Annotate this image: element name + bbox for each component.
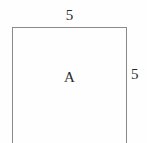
square-shape	[12, 27, 127, 143]
region-label-a: A	[12, 70, 127, 85]
top-side-length-label: 5	[0, 8, 139, 23]
right-side-length-label: 5	[131, 67, 147, 82]
geometry-figure: 5 A 5	[0, 0, 147, 143]
